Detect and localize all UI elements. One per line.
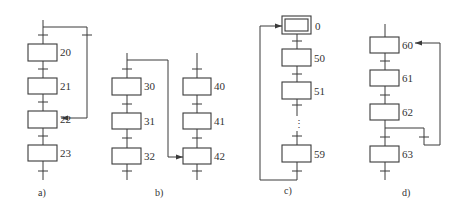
step-label: 40	[214, 80, 226, 92]
step-label: 42	[214, 150, 225, 162]
step-label: 31	[144, 115, 155, 127]
step-31	[112, 113, 141, 129]
panel-b: 30 31 32 40 41 42 b)	[112, 53, 226, 199]
initial-step-inner	[285, 19, 308, 31]
step-51	[282, 82, 311, 99]
step-59	[282, 145, 311, 162]
panel-caption: b)	[155, 187, 163, 199]
step-32	[112, 148, 141, 164]
step-40	[183, 78, 211, 95]
step-label: 51	[314, 85, 325, 97]
step-label: 20	[60, 46, 72, 58]
step-60	[370, 37, 399, 53]
panel-a: 20 21 22 23 a)	[28, 20, 92, 199]
panel-caption: c)	[284, 185, 292, 197]
step-20	[28, 44, 57, 61]
step-label: 61	[402, 72, 413, 84]
step-label: 60	[402, 39, 414, 51]
panel-caption: d)	[402, 187, 410, 199]
step-label: 30	[144, 80, 156, 92]
sfc-diagram: 20 21 22 23 a) 30 31 32	[0, 0, 454, 210]
step-label: 23	[60, 147, 72, 159]
ellipsis: ⋮	[294, 118, 304, 129]
step-label: 59	[314, 148, 326, 160]
step-label: 0	[315, 20, 321, 32]
step-label: 32	[144, 150, 155, 162]
step-23	[28, 145, 57, 161]
panel-c: ⋮ 0 50 51 59 c)	[260, 16, 326, 197]
step-label: 22	[60, 113, 71, 125]
step-42	[183, 148, 211, 164]
step-30	[112, 78, 141, 95]
step-21	[28, 78, 57, 94]
panel-d: 60 61 62 63 d)	[370, 24, 440, 199]
step-41	[183, 113, 211, 129]
step-label: 41	[214, 115, 225, 127]
step-63	[370, 146, 399, 162]
step-22	[28, 111, 57, 128]
step-label: 50	[314, 52, 326, 64]
step-61	[370, 70, 399, 86]
step-50	[282, 49, 311, 66]
step-label: 62	[402, 106, 413, 118]
step-62	[370, 104, 399, 120]
panel-caption: a)	[38, 187, 46, 199]
step-label: 63	[402, 148, 414, 160]
step-label: 21	[60, 80, 71, 92]
